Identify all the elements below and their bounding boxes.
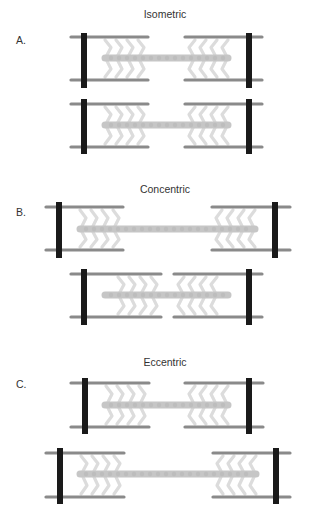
myosin-head <box>221 56 225 60</box>
myosin-head <box>188 227 192 231</box>
cross-bridge <box>102 210 108 226</box>
cross-bridge <box>211 386 217 402</box>
cross-bridge <box>117 408 123 424</box>
myosin-head <box>141 403 145 407</box>
cross-bridge <box>138 61 144 77</box>
myosin-head <box>109 293 113 297</box>
myosin-head <box>117 56 121 60</box>
cross-bridge <box>127 40 133 55</box>
cross-bridge <box>239 456 245 471</box>
myosin-head <box>221 403 225 407</box>
cross-bridge <box>189 298 195 314</box>
cross-bridge <box>189 107 195 122</box>
myosin-head <box>124 472 128 476</box>
myosin-head <box>181 293 185 297</box>
cross-bridge <box>200 386 206 402</box>
cross-bridge <box>222 107 228 122</box>
myosin-head <box>84 472 88 476</box>
cross-bridge <box>91 232 97 247</box>
cross-bridge <box>222 61 228 77</box>
cross-bridge <box>81 477 87 494</box>
myosin-head <box>213 123 217 127</box>
cross-bridge <box>113 210 119 226</box>
myosin-head <box>205 123 209 127</box>
cross-bridge <box>222 386 228 402</box>
myosin-head <box>244 472 248 476</box>
cross-bridge <box>105 107 111 122</box>
myosin-head <box>156 227 160 231</box>
z-line-right <box>246 33 252 88</box>
myosin-head <box>149 403 153 407</box>
myosin-head <box>100 227 104 231</box>
myosin-head <box>109 56 113 60</box>
myosin-head <box>220 472 224 476</box>
cross-bridge <box>249 232 255 247</box>
myosin-head <box>212 227 216 231</box>
cross-bridge <box>227 210 233 226</box>
myosin-head <box>156 472 160 476</box>
cross-bridge <box>200 277 206 292</box>
myosin-head <box>149 123 153 127</box>
myosin-head <box>189 293 193 297</box>
myosin-head <box>133 56 137 60</box>
myosin-head <box>125 56 129 60</box>
cross-bridge <box>151 277 157 292</box>
myosin-head <box>213 403 217 407</box>
cross-bridge <box>238 210 244 226</box>
cross-bridge <box>222 408 228 424</box>
myosin-head <box>172 227 176 231</box>
cross-bridge <box>80 232 86 247</box>
z-line-left <box>82 378 88 434</box>
cross-bridge <box>249 210 255 226</box>
cross-bridge <box>116 128 122 144</box>
myosin-head <box>92 472 96 476</box>
cross-bridge <box>151 298 157 314</box>
myosin-head <box>189 123 193 127</box>
myosin-head <box>148 227 152 231</box>
cross-bridge <box>105 40 111 55</box>
myosin-head <box>109 403 113 407</box>
cross-bridge <box>117 386 123 402</box>
myosin-head <box>205 56 209 60</box>
cross-bridge <box>211 128 217 144</box>
cross-bridge <box>128 386 134 402</box>
cross-bridge <box>200 408 206 424</box>
myosin-head <box>109 123 113 127</box>
myosin-head <box>197 123 201 127</box>
myosin-head <box>133 403 137 407</box>
cross-bridge <box>105 61 111 77</box>
cross-bridge <box>211 277 217 292</box>
cross-bridge <box>189 128 195 144</box>
myosin-head <box>165 123 169 127</box>
cross-bridge <box>200 128 206 144</box>
cross-bridge <box>105 128 111 144</box>
sarcomere <box>71 99 262 154</box>
z-line-right <box>273 448 279 504</box>
myosin-head <box>236 472 240 476</box>
cross-bridge <box>217 477 223 494</box>
cross-bridge <box>81 456 87 471</box>
cross-bridge <box>200 61 206 77</box>
myosin-head <box>132 472 136 476</box>
cross-bridge <box>80 210 86 226</box>
myosin-head <box>125 403 129 407</box>
myosin-head <box>213 56 217 60</box>
z-line-right <box>246 378 252 434</box>
myosin-head <box>108 472 112 476</box>
cross-bridge <box>178 277 184 292</box>
cross-bridge <box>106 386 112 402</box>
z-line-right <box>246 269 252 325</box>
myosin-head <box>197 56 201 60</box>
myosin-head <box>124 227 128 231</box>
cross-bridge <box>92 477 98 494</box>
cross-bridge <box>211 298 217 314</box>
myosin-head <box>149 293 153 297</box>
myosin-head <box>244 227 248 231</box>
cross-bridge <box>116 107 122 122</box>
cross-bridge <box>250 456 256 471</box>
sarcomere <box>46 448 290 504</box>
myosin-head <box>181 403 185 407</box>
cross-bridge <box>138 128 144 144</box>
cross-bridge <box>114 477 120 494</box>
cross-bridge <box>189 61 195 77</box>
